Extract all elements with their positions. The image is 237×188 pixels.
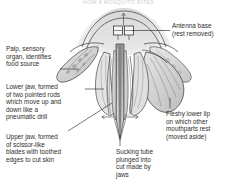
label-antenna-base: Antenna base (rest removed) bbox=[172, 22, 214, 37]
label-lower-jaw: Lower jaw, formed of two pointed rods wh… bbox=[6, 83, 61, 121]
label-sucking-tube: Sucking tube plunged into cut made by ja… bbox=[116, 148, 153, 178]
label-fleshy-lower-lip: Fleshy lower lip on which other mouthpar… bbox=[166, 110, 210, 140]
diagram-stage: HOW A MOSQUITO BITES bbox=[0, 0, 237, 188]
label-upper-jaw: Upper jaw, formed of scissor-like blades… bbox=[6, 133, 61, 163]
arrow-right bbox=[127, 115, 138, 118]
arrow-left bbox=[102, 115, 113, 118]
label-palp: Palp, sensory organ, identifies food sou… bbox=[6, 45, 51, 68]
left-palp bbox=[57, 47, 98, 82]
